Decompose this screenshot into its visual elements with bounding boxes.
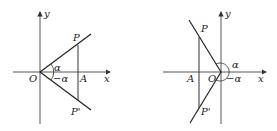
alpha-label: α: [232, 59, 239, 70]
p-prime-label: P': [70, 106, 80, 117]
p-label: P: [72, 32, 80, 43]
neg-alpha-label: −α: [226, 73, 241, 84]
a-label: A: [79, 73, 87, 84]
a-label: A: [186, 73, 194, 84]
x-label: x: [104, 73, 110, 84]
ray-op: [40, 34, 91, 72]
diagrams-canvas: y x O P A P' α −α y x O P A P' α −α: [0, 0, 277, 131]
left-diagram: y x O P A P' α −α: [13, 8, 110, 124]
neg-alpha-label: −α: [53, 73, 68, 84]
p-prime-label: P': [200, 106, 210, 117]
p-label: P: [200, 23, 208, 34]
alpha-label: α: [54, 62, 61, 73]
x-label: x: [258, 73, 264, 84]
origin-label: O: [29, 73, 37, 84]
y-label: y: [43, 8, 50, 19]
origin-label: O: [208, 73, 216, 84]
right-diagram: y x O P A P' α −α: [163, 8, 266, 124]
y-label: y: [224, 8, 231, 19]
